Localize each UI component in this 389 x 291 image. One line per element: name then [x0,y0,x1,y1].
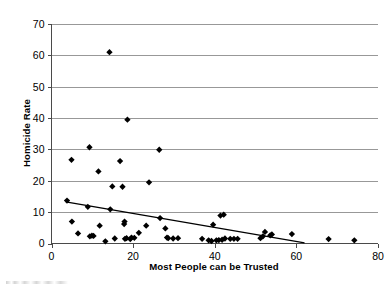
data-point [124,116,130,122]
x-tick-label-80: 80 [372,250,384,262]
trend-line [66,202,305,243]
data-point [136,230,142,236]
scatter-plot-figure: 010203040506070 020406080 Most People ca… [0,0,389,291]
data-point [106,49,112,55]
data-point [112,235,118,241]
data-point [117,158,123,164]
y-tick-labels-group: 010203040506070 [33,18,45,250]
data-point [119,184,125,190]
data-point [162,225,168,231]
data-point [351,237,357,243]
data-point [234,236,240,242]
y-tick-marks-group [48,25,52,245]
x-axis-title: Most People can be Trusted [149,261,279,272]
y-tick-label-10: 10 [33,206,45,218]
data-point [97,222,103,228]
data-point [289,231,295,237]
y-tick-label-60: 60 [33,49,45,61]
data-point [156,147,162,153]
y-tick-label-20: 20 [33,175,45,187]
data-point [175,235,181,241]
data-point [68,157,74,163]
data-point [69,218,75,224]
x-tick-label-0: 0 [49,250,55,262]
data-point [146,179,152,185]
x-tick-marks-group [53,244,379,248]
y-axis-title: Homicide Rate [21,99,32,167]
x-tick-label-20: 20 [127,250,139,262]
y-tick-label-70: 70 [33,18,45,30]
y-tick-label-0: 0 [39,237,45,249]
gridlines-group [52,25,379,213]
x-tick-labels-group: 020406080 [49,250,384,262]
data-point [325,236,331,242]
data-point [199,236,205,242]
data-markers-group [64,49,358,244]
y-tick-label-30: 30 [33,143,45,155]
x-tick-label-60: 60 [291,250,303,262]
y-tick-label-50: 50 [33,81,45,93]
chart-canvas: 010203040506070 020406080 Most People ca… [0,0,389,291]
data-point [143,222,149,228]
data-point [75,230,81,236]
data-point [109,183,115,189]
data-point [95,168,101,174]
x-tick-label-40: 40 [209,250,221,262]
y-tick-label-40: 40 [33,112,45,124]
